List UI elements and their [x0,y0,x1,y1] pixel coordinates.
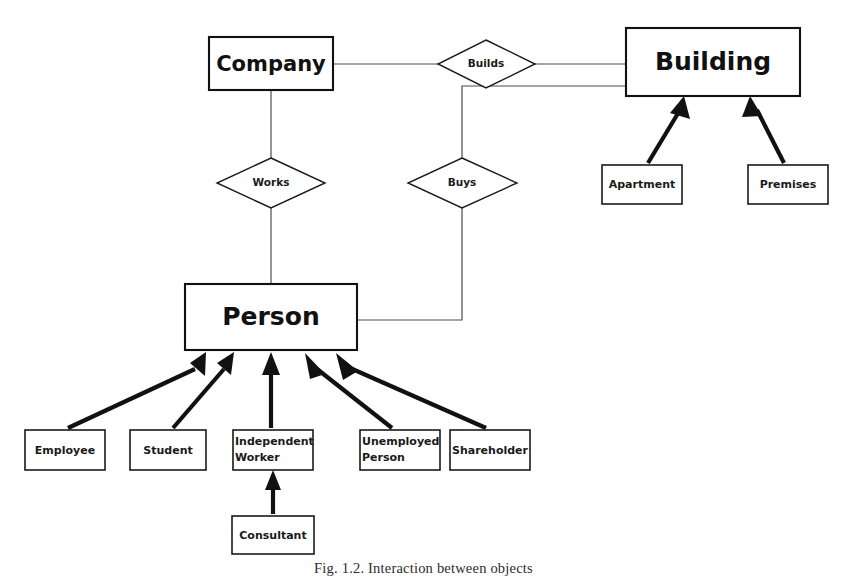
relationship-buys[interactable]: Buys [408,158,517,208]
isa-arrowhead-independent-worker [262,352,280,375]
entity-company[interactable]: Company [209,37,333,90]
entity-shareholder-label: Shareholder [452,444,529,457]
entity-independent-worker-label-line2: Worker [235,451,280,464]
isa-arrow-shareholder-person [336,353,486,428]
entity-shareholder[interactable]: Shareholder [450,430,530,470]
entity-independent-worker-label-line1: Independent [235,435,314,448]
entity-employee-label: Employee [35,444,95,457]
relationship-builds-label: Builds [468,57,504,69]
entity-company-label: Company [216,52,326,76]
entity-student-label: Student [143,444,192,457]
connector-building-buys [462,86,626,158]
figure-caption: Fig. 1.2. Interaction between objects [0,560,847,577]
entity-employee[interactable]: Employee [25,430,105,470]
entity-independent-worker[interactable]: Independent Worker [233,430,314,470]
entity-premises-label: Premises [760,178,817,191]
entity-person-label: Person [222,302,319,331]
isa-arrowhead-apartment [670,96,690,119]
relationship-buys-label: Buys [448,176,477,188]
entity-person[interactable]: Person [185,284,357,350]
entity-apartment-label: Apartment [609,178,676,191]
entity-apartment[interactable]: Apartment [602,165,682,204]
entity-building[interactable]: Building [626,28,800,96]
isa-arrow-consultant-independent-worker [265,470,281,514]
relationship-works-label: Works [253,176,290,188]
isa-arrow-premises-building [742,96,784,163]
entity-unemployed-person[interactable]: Unemployed Person [360,430,440,470]
entity-premises[interactable]: Premises [748,165,828,204]
entity-unemployed-person-label-line1: Unemployed [362,435,439,448]
relationship-builds[interactable]: Builds [438,40,535,88]
isa-arrow-independent-worker-person [262,352,280,428]
relationship-works[interactable]: Works [217,158,325,208]
entity-student[interactable]: Student [130,430,206,470]
isa-arrow-apartment-building [648,96,690,163]
isa-arrowhead-consultant [265,470,281,490]
entity-consultant-label: Consultant [239,529,306,542]
entity-unemployed-person-label-line2: Person [362,451,405,464]
isa-arrowhead-shareholder [336,353,358,380]
isa-arrowhead-premises [742,96,762,117]
connector-buys-person [357,208,462,320]
entity-building-label: Building [655,47,771,76]
entity-consultant[interactable]: Consultant [232,516,314,554]
